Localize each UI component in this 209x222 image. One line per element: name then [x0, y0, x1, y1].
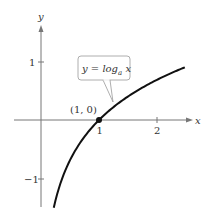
x-tick-label-1: 1 — [97, 125, 103, 136]
callout-pointer — [103, 80, 113, 102]
y-tick-label-minus1: −1 — [24, 174, 39, 185]
callout-prefix: y = log — [81, 63, 118, 74]
x-axis-arrow-icon — [186, 118, 193, 123]
y-axis-label: y — [37, 11, 44, 22]
x-tick-label-2: 2 — [154, 125, 160, 136]
point-label: (1, 0) — [70, 104, 97, 115]
point-1-0 — [96, 117, 102, 123]
log-curve — [54, 67, 185, 208]
log-graph: y x 1 2 1 −1 (1, 0) y = loga x — [0, 0, 209, 222]
y-axis-arrow-icon — [39, 25, 44, 32]
y-tick-label-1: 1 — [29, 57, 35, 68]
x-axis-label: x — [195, 115, 201, 126]
callout-suffix: x — [122, 63, 131, 74]
